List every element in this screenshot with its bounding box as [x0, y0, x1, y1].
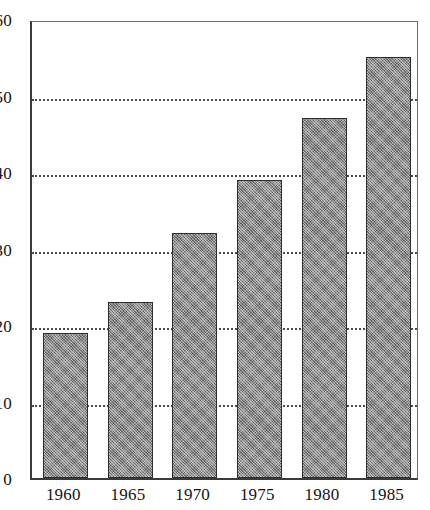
y-axis-tick-label-20: 20: [0, 318, 12, 335]
y-axis-tick-label-40: 40: [0, 165, 12, 182]
gridline-50: [32, 99, 417, 101]
x-axis-tick-label-1960: 1960: [31, 486, 96, 504]
y-axis-tick-label-10: 10: [0, 395, 12, 412]
y-axis-tick-label-0: 0: [0, 471, 12, 488]
x-axis-tick-label-1985: 1985: [354, 486, 419, 504]
bar-1985: [366, 57, 411, 478]
gridline-10: [32, 405, 417, 407]
gridline-40: [32, 175, 417, 177]
bar-1980: [302, 118, 347, 478]
bar-1970: [172, 233, 217, 478]
gridline-20: [32, 328, 417, 330]
gridline-30: [32, 252, 417, 254]
bar-1975: [237, 180, 282, 478]
bar-chart-figure: 60 50 40 30 20 10 0 19601965197019751980…: [0, 0, 430, 510]
bar-1960: [43, 333, 88, 478]
plot-area: [30, 21, 418, 480]
x-axis-tick-label-1975: 1975: [225, 486, 290, 504]
x-axis-tick-label-1970: 1970: [160, 486, 225, 504]
y-axis-tick-label-50: 50: [0, 89, 12, 106]
y-axis-tick-label-30: 30: [0, 242, 12, 259]
bar-1965: [108, 302, 153, 478]
y-axis-tick-label-60: 60: [0, 12, 12, 29]
x-axis-tick-label-1980: 1980: [290, 486, 355, 504]
x-axis-tick-label-1965: 1965: [96, 486, 161, 504]
